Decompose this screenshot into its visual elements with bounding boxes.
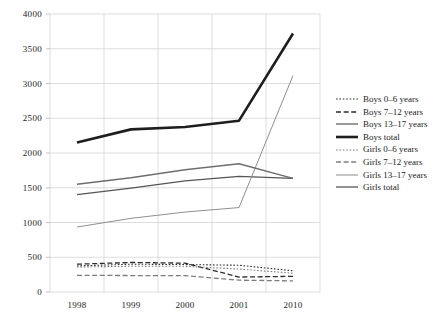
x-axis-tick-labels: 19981999200020012010: [67, 300, 302, 310]
y-tick-label: 2000: [23, 148, 42, 158]
legend-label: Boys 13–17 years: [363, 118, 428, 131]
x-tick-label: 2010: [283, 300, 302, 310]
series-line: [77, 76, 293, 228]
y-tick-label: 3000: [23, 79, 42, 89]
legend-line-swatch: [336, 94, 358, 104]
legend-label: Girls total: [363, 181, 399, 194]
legend-label: Boys 7–12 years: [363, 106, 423, 119]
legend-item[interactable]: Boys 13–17 years: [336, 118, 446, 131]
y-tick-label: 1500: [23, 183, 42, 193]
y-tick-label: 0: [37, 287, 42, 297]
legend-line-swatch: [336, 132, 358, 142]
legend-label: Boys 0–6 years: [363, 93, 419, 106]
legend-item[interactable]: Girls 0–6 years: [336, 143, 446, 156]
y-tick-label: 3500: [23, 44, 42, 54]
y-tick-label: 2500: [23, 113, 42, 123]
legend-item[interactable]: Girls 13–17 years: [336, 169, 446, 182]
y-axis-tick-labels: 05001000150020002500300035004000: [23, 9, 50, 297]
x-tick-label: 1998: [67, 300, 86, 310]
x-tick-label: 2000: [175, 300, 194, 310]
legend-label: Girls 7–12 years: [363, 156, 423, 169]
legend-item[interactable]: Boys total: [336, 131, 446, 144]
legend-label: Girls 0–6 years: [363, 143, 418, 156]
chart-legend: Boys 0–6 yearsBoys 7–12 yearsBoys 13–17 …: [336, 93, 446, 194]
line-chart: 05001000150020002500300035004000 1998199…: [0, 0, 446, 324]
series-lines: [77, 33, 293, 280]
legend-line-swatch: [336, 157, 358, 167]
legend-line-swatch: [336, 119, 358, 129]
legend-line-swatch: [336, 107, 358, 117]
legend-item[interactable]: Girls 7–12 years: [336, 156, 446, 169]
series-line: [77, 264, 293, 271]
legend-label: Boys total: [363, 131, 400, 144]
x-tick-label: 2001: [229, 300, 248, 310]
x-tick-label: 1999: [121, 300, 140, 310]
y-tick-label: 1000: [23, 218, 42, 228]
y-tick-label: 500: [28, 252, 43, 262]
y-tick-label: 4000: [23, 9, 42, 19]
legend-item[interactable]: Girls total: [336, 181, 446, 194]
series-line: [77, 33, 293, 142]
legend-item[interactable]: Boys 7–12 years: [336, 106, 446, 119]
series-line: [77, 176, 293, 194]
legend-line-swatch: [336, 145, 358, 155]
legend-label: Girls 13–17 years: [363, 169, 427, 182]
legend-line-swatch: [336, 170, 358, 180]
legend-line-swatch: [336, 182, 358, 192]
legend-item[interactable]: Boys 0–6 years: [336, 93, 446, 106]
